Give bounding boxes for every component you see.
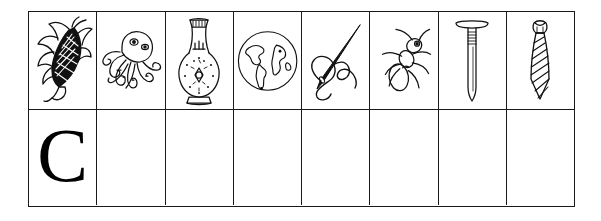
picture-row bbox=[29, 12, 574, 110]
picture-cell-globe[interactable] bbox=[234, 12, 302, 109]
letter-cell-2[interactable] bbox=[97, 110, 165, 205]
picture-letter-worksheet-grid: C bbox=[28, 11, 575, 207]
ant-icon bbox=[370, 12, 437, 109]
letter-cell-1[interactable]: C bbox=[29, 110, 97, 205]
letter-cell-4[interactable] bbox=[234, 110, 302, 205]
corn-icon bbox=[29, 12, 96, 109]
octopus-icon bbox=[97, 12, 164, 109]
picture-cell-octopus[interactable] bbox=[97, 12, 165, 109]
picture-cell-necktie[interactable] bbox=[507, 12, 574, 109]
nail-icon bbox=[439, 12, 506, 109]
picture-cell-corn[interactable] bbox=[29, 12, 97, 109]
letter-cell-6[interactable] bbox=[370, 110, 438, 205]
letter-cell-5[interactable] bbox=[302, 110, 370, 205]
picture-cell-nail[interactable] bbox=[439, 12, 507, 109]
picture-cell-needle-and-thread[interactable] bbox=[302, 12, 370, 109]
letter-cell-8[interactable] bbox=[507, 110, 574, 205]
necktie-icon bbox=[507, 12, 574, 109]
vase-icon bbox=[166, 12, 233, 109]
letter-glyph-c: C bbox=[37, 117, 88, 199]
picture-cell-vase[interactable] bbox=[166, 12, 234, 109]
letter-row: C bbox=[29, 110, 574, 205]
letter-cell-3[interactable] bbox=[166, 110, 234, 205]
picture-cell-ant[interactable] bbox=[370, 12, 438, 109]
letter-cell-7[interactable] bbox=[439, 110, 507, 205]
needle-and-thread-icon bbox=[302, 12, 369, 109]
globe-icon bbox=[234, 12, 301, 109]
